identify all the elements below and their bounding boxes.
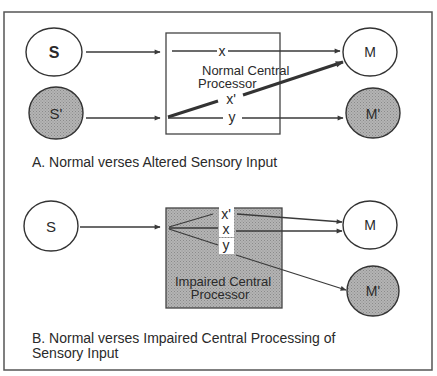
path-x-prime-a-label: x' [226,91,236,107]
path-x-prime-b-label: x' [221,206,231,222]
node-m-prime-a-label: M' [366,106,380,122]
processor-label-b2: Processor [191,287,250,302]
node-m-prime-b-label: M' [366,283,380,299]
node-m-b-label: M [364,217,376,233]
node-s-prime-a-label: S' [50,105,63,122]
path-y-a-label: y [229,109,236,125]
node-s-b-label: S [46,218,56,235]
node-m-a-label: M [364,44,376,60]
path-x-b-label: x [223,221,230,237]
caption-a: A. Normal verses Altered Sensory Input [32,154,277,170]
caption-b-line1: B. Normal verses Impaired Central Proces… [32,330,336,346]
processor-label-a2: Processor [198,76,257,91]
path-x-a-label: x [219,43,226,59]
node-s-a-label: S [49,44,60,61]
caption-b-line2: Sensory Input [32,345,118,361]
path-y-b-label: y [223,237,230,253]
diagram-canvas: Normal Central Processor S S' M M' x x' … [0,0,437,376]
